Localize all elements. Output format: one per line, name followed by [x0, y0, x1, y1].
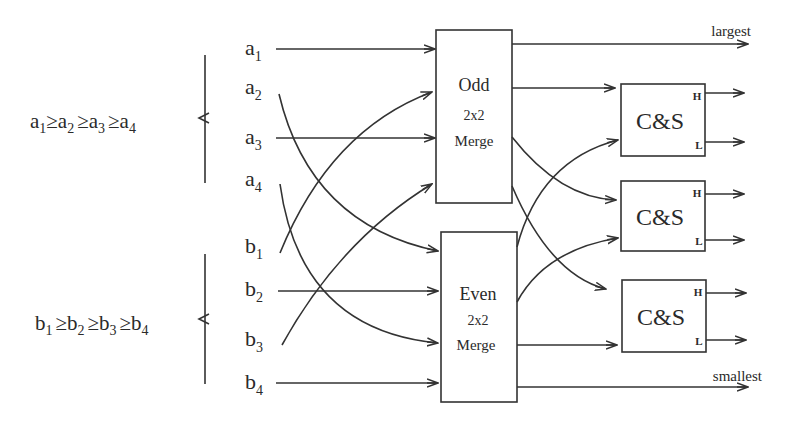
cs-box-3: C&S H L: [622, 280, 746, 352]
svg-text:b1≥b2≥b3≥b4: b1≥b2≥b3≥b4: [35, 311, 149, 338]
svg-text:Merge: Merge: [455, 133, 494, 149]
input-b1: b1: [245, 233, 263, 262]
svg-text:C&S: C&S: [636, 108, 684, 134]
input-a1: a1: [245, 35, 262, 64]
smallest-label: smallest: [713, 368, 763, 384]
cs-box-1: C&S H L: [621, 84, 744, 156]
input-b4: b4: [245, 369, 263, 398]
svg-text:Even: Even: [460, 284, 497, 304]
svg-text:Odd: Odd: [459, 75, 490, 95]
svg-text:C&S: C&S: [637, 304, 685, 330]
input-b2: b2: [245, 276, 263, 305]
svg-text:C&S: C&S: [636, 204, 684, 230]
bracket-a-arrowhead: [199, 113, 209, 123]
wire-a4: [280, 184, 438, 343]
wire-even-to-cs1: [517, 140, 618, 247]
svg-text:Merge: Merge: [457, 337, 496, 353]
merge-network-diagram: a1≥a2≥a3≥a4 b1≥b2≥b3≥b4 a1 a2 a3 a4 b1 b…: [0, 0, 795, 428]
svg-text:L: L: [695, 139, 702, 151]
wire-a2: [279, 94, 438, 251]
input-a4: a4: [245, 166, 262, 195]
wire-odd-to-cs3: [512, 186, 606, 289]
even-merge-box: Even 2x2 Merge: [441, 232, 517, 402]
svg-text:H: H: [693, 187, 702, 199]
svg-text:2x2: 2x2: [468, 313, 489, 328]
bracket-b-arrowhead: [199, 314, 209, 324]
svg-text:a1≥a2≥a3≥a4: a1≥a2≥a3≥a4: [30, 109, 136, 136]
cs-box-2: C&S H L: [621, 181, 744, 251]
input-a2: a2: [245, 74, 262, 103]
input-a3: a3: [245, 124, 262, 153]
input-wires: [276, 49, 438, 383]
odd-merge-box: Odd 2x2 Merge: [436, 30, 512, 203]
svg-text:2x2: 2x2: [464, 108, 485, 123]
wire-b1: [280, 92, 432, 253]
svg-text:H: H: [694, 286, 703, 298]
svg-text:H: H: [693, 90, 702, 102]
input-labels: a1 a2 a3 a4 b1 b2 b3 b4: [245, 35, 263, 398]
input-b3: b3: [245, 326, 263, 355]
inequality-b: b1≥b2≥b3≥b4: [35, 311, 149, 338]
largest-label: largest: [711, 23, 752, 39]
wire-even-to-cs2: [517, 238, 618, 302]
svg-text:L: L: [695, 335, 702, 347]
svg-text:L: L: [695, 235, 702, 247]
inequality-a: a1≥a2≥a3≥a4: [30, 109, 136, 136]
